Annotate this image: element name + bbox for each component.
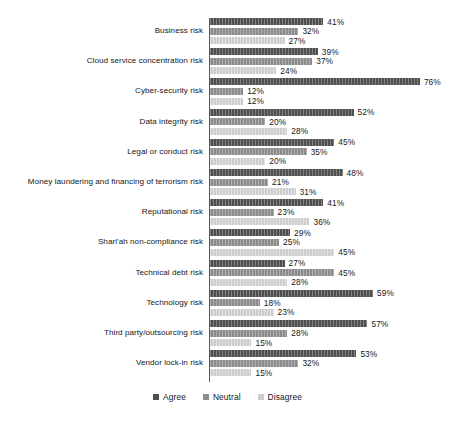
bar-value-label: 25% — [283, 237, 300, 247]
category-label: Cloud service concentration risk — [87, 57, 203, 66]
bar-row: 45% — [210, 249, 450, 256]
bar-row: 32% — [210, 28, 450, 35]
bar-row: 39% — [210, 48, 450, 55]
bar-row: 52% — [210, 109, 450, 116]
category-group: Business risk41%32%27% — [0, 18, 455, 44]
bar-agree — [210, 169, 343, 176]
bar-row: 23% — [210, 209, 450, 216]
bar-value-label: 12% — [247, 96, 264, 106]
category-group: Vendor lock-in risk53%32%15% — [0, 350, 455, 376]
bar-row: 36% — [210, 218, 450, 225]
bar-row: 20% — [210, 118, 450, 125]
bar-value-label: 24% — [280, 66, 297, 76]
bar-disagree — [210, 37, 285, 44]
bar-value-label: 59% — [377, 288, 394, 298]
bar-row: 29% — [210, 229, 450, 236]
bar-value-label: 37% — [316, 56, 333, 66]
bar-value-label: 18% — [264, 298, 281, 308]
bar-value-label: 45% — [338, 137, 355, 147]
bar-neutral — [210, 360, 298, 367]
bar-row: 35% — [210, 148, 450, 155]
bar-agree — [210, 350, 356, 357]
bar-neutral — [210, 330, 287, 337]
bar-disagree — [210, 218, 309, 225]
bar-value-label: 21% — [272, 177, 289, 187]
legend-swatch-icon — [203, 394, 209, 400]
bar-value-label: 41% — [327, 198, 344, 208]
bar-disagree — [210, 309, 274, 316]
bar-disagree — [210, 67, 276, 74]
bar-agree — [210, 320, 367, 327]
bar-disagree — [210, 369, 251, 376]
legend-swatch-icon — [258, 394, 264, 400]
bar-neutral — [210, 209, 274, 216]
legend-item-disagree[interactable]: Disagree — [258, 392, 302, 402]
bar-row: 18% — [210, 299, 450, 306]
bar-value-label: 45% — [338, 268, 355, 278]
plot-area: Business risk41%32%27%Cloud service conc… — [0, 10, 455, 385]
category-group: Cyber-security risk76%12%12% — [0, 78, 455, 104]
grouped-bar-chart: Business risk41%32%27%Cloud service conc… — [0, 0, 455, 427]
category-label: Technical debt risk — [135, 268, 203, 277]
bar-value-label: 53% — [360, 349, 377, 359]
bar-value-label: 32% — [302, 358, 319, 368]
bar-row: 57% — [210, 320, 450, 327]
bar-agree — [210, 48, 318, 55]
bar-row: 20% — [210, 158, 450, 165]
category-group: Money laundering and financing of terror… — [0, 169, 455, 195]
bar-agree — [210, 18, 323, 25]
bar-row: 24% — [210, 67, 450, 74]
bar-neutral — [210, 88, 243, 95]
category-label: Third party/outsourcing risk — [104, 329, 203, 338]
bar-row: 59% — [210, 290, 450, 297]
category-group: Legal or conduct risk45%35%20% — [0, 139, 455, 165]
bar-row: 27% — [210, 260, 450, 267]
bar-row: 28% — [210, 128, 450, 135]
bar-row: 45% — [210, 139, 450, 146]
bar-neutral — [210, 239, 279, 246]
bar-disagree — [210, 98, 243, 105]
bar-disagree — [210, 339, 251, 346]
bar-neutral — [210, 118, 265, 125]
bar-row: 53% — [210, 350, 450, 357]
bar-agree — [210, 260, 285, 267]
bar-row: 48% — [210, 169, 450, 176]
bar-disagree — [210, 188, 296, 195]
bar-value-label: 31% — [300, 187, 317, 197]
legend-item-neutral[interactable]: Neutral — [203, 392, 241, 402]
bar-value-label: 12% — [247, 86, 264, 96]
category-label: Cyber-security risk — [135, 87, 203, 96]
bar-row: 41% — [210, 18, 450, 25]
legend-label: Neutral — [213, 392, 241, 402]
category-group: Cloud service concentration risk39%37%24… — [0, 48, 455, 74]
bar-value-label: 41% — [327, 17, 344, 27]
bar-value-label: 27% — [289, 258, 306, 268]
bar-value-label: 57% — [371, 319, 388, 329]
legend-swatch-icon — [153, 394, 159, 400]
bar-agree — [210, 139, 334, 146]
bar-value-label: 28% — [291, 328, 308, 338]
bar-agree — [210, 290, 373, 297]
category-label: Vendor lock-in risk — [136, 359, 203, 368]
legend-item-agree[interactable]: Agree — [153, 392, 186, 402]
bar-row: 15% — [210, 369, 450, 376]
bar-neutral — [210, 269, 334, 276]
bar-row: 31% — [210, 188, 450, 195]
bar-neutral — [210, 28, 298, 35]
bar-row: 32% — [210, 360, 450, 367]
bar-value-label: 36% — [313, 217, 330, 227]
bar-agree — [210, 199, 323, 206]
category-group: Technology risk59%18%23% — [0, 290, 455, 316]
category-label: Technology risk — [146, 298, 203, 307]
category-label: Business risk — [155, 27, 203, 36]
bar-value-label: 15% — [255, 368, 272, 378]
category-label: Legal or conduct risk — [127, 147, 203, 156]
bar-neutral — [210, 58, 312, 65]
bar-value-label: 15% — [255, 338, 272, 348]
bar-row: 76% — [210, 78, 450, 85]
bar-value-label: 28% — [291, 126, 308, 136]
bar-value-label: 52% — [358, 107, 375, 117]
bar-row: 12% — [210, 88, 450, 95]
bar-disagree — [210, 158, 265, 165]
bar-value-label: 23% — [278, 307, 295, 317]
